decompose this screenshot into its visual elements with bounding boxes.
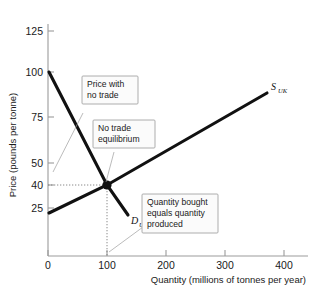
callout-price-no-trade-line1: Price with [87, 79, 124, 89]
callout-quantity-line2: equals quantity [147, 208, 206, 218]
x-tick-label-100: 100 [98, 259, 116, 271]
y-tick-label-25: 25 [31, 202, 43, 214]
callout-price-no-trade-line2: no trade [87, 90, 119, 100]
equilibrium-point-marker [102, 180, 111, 189]
callout-quantity-line1: Quantity bought [147, 197, 208, 207]
x-tick-label-300: 300 [216, 259, 234, 271]
y-tick-label-100: 100 [25, 66, 43, 78]
x-tick-label-0: 0 [45, 259, 51, 271]
supply-curve-label: S [271, 81, 276, 92]
chart-background [0, 0, 314, 290]
y-tick-label-50: 50 [31, 157, 43, 169]
supply-curve-subscript: UK [278, 87, 288, 94]
y-axis-title: Price (pounds per tonne) [7, 93, 18, 198]
callout-equilibrium-line1: No trade [98, 123, 131, 133]
y-tick-label-75: 75 [31, 111, 43, 123]
x-axis-title: Quantity (millions of tonnes per year) [151, 274, 306, 285]
y-tick-label-40: 40 [31, 179, 43, 191]
x-tick-label-200: 200 [157, 259, 175, 271]
y-tick-label-125: 125 [25, 25, 43, 37]
callout-equilibrium-line2: equilibrium [98, 134, 140, 144]
callout-quantity-line3: produced [147, 219, 183, 229]
x-tick-label-400: 400 [275, 259, 293, 271]
economics-supply-demand-chart: 125 100 75 50 40 25 0 100 200 300 400 Pr… [0, 0, 314, 290]
demand-curve-label: D [130, 215, 139, 226]
